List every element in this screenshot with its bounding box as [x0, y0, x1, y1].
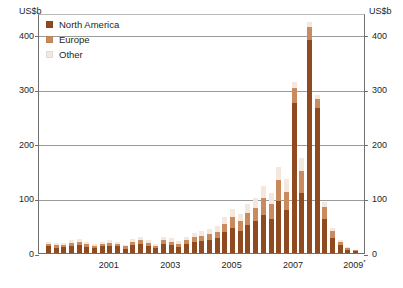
- bar-segment: [253, 221, 258, 253]
- y-tickmark-right: [364, 255, 368, 256]
- bar: [46, 242, 51, 253]
- x-tick-superscript: *: [363, 259, 365, 265]
- bar-segment: [169, 245, 174, 253]
- y-tick-label-right: 400: [372, 32, 387, 41]
- bar: [238, 214, 243, 253]
- bar-segment: [269, 193, 274, 204]
- bar: [77, 239, 82, 253]
- y-tick-label-right: 200: [372, 141, 387, 150]
- bar-segment: [284, 192, 289, 211]
- bar-segment: [307, 27, 312, 41]
- bar-segment: [192, 242, 197, 253]
- bar: [161, 237, 166, 253]
- y-tick-label-right: 300: [372, 86, 387, 95]
- bar-segment: [238, 231, 243, 253]
- bar: [299, 158, 304, 253]
- bar-segment: [338, 245, 343, 253]
- bar: [261, 186, 266, 253]
- bar: [292, 82, 297, 253]
- bar-segment: [215, 238, 220, 253]
- bar: [207, 229, 212, 253]
- legend-item: Europe: [46, 33, 119, 46]
- bar: [92, 244, 97, 253]
- bar-segment: [284, 179, 289, 192]
- bar-segment: [69, 246, 74, 253]
- legend-swatch-icon: [46, 51, 53, 58]
- bar: [115, 242, 120, 253]
- x-tick-label: 2005: [222, 260, 242, 270]
- bar-segment: [261, 198, 266, 214]
- bar-segment: [315, 108, 320, 253]
- legend: North AmericaEuropeOther: [46, 18, 119, 63]
- bar-segment: [299, 158, 304, 172]
- bar: [353, 250, 358, 253]
- bar-segment: [153, 248, 158, 253]
- bar-segment: [322, 219, 327, 253]
- bar-segment: [292, 103, 297, 253]
- bar-segment: [284, 210, 289, 253]
- bar-segment: [146, 246, 151, 253]
- bar: [192, 233, 197, 253]
- bar-segment: [253, 208, 258, 222]
- bar-segment: [322, 207, 327, 219]
- bar-segment: [92, 248, 97, 253]
- bar-segment: [230, 209, 235, 217]
- bar-segment: [199, 241, 204, 253]
- bar: [215, 226, 220, 253]
- bar-segment: [184, 244, 189, 253]
- bar-segment: [230, 228, 235, 253]
- bar: [222, 217, 227, 253]
- bar-segment: [138, 244, 143, 253]
- bar-segment: [123, 249, 128, 253]
- bar-segment: [315, 99, 320, 109]
- stacked-bar-chart: US$b US$b 0100200300400 0100200300400 20…: [0, 0, 403, 288]
- x-tick-label: 2009*: [343, 260, 365, 270]
- bar-segment: [353, 251, 358, 253]
- x-tick-label: 2003: [160, 260, 180, 270]
- bar-segment: [115, 246, 120, 253]
- bar: [107, 240, 112, 253]
- bar-segment: [176, 247, 181, 253]
- y-tick-label-right: 0: [372, 250, 377, 259]
- legend-item: North America: [46, 18, 119, 31]
- y-tick-label-left: 200: [19, 141, 34, 150]
- bar: [338, 240, 343, 253]
- legend-label: Europe: [59, 35, 90, 45]
- y-tickmark-right: [364, 36, 368, 37]
- bar: [146, 240, 151, 253]
- y-tickmark-right: [364, 145, 368, 146]
- bar-segment: [84, 247, 89, 253]
- legend-swatch-icon: [46, 36, 53, 43]
- bar: [330, 228, 335, 253]
- bar: [169, 238, 174, 253]
- bar: [345, 247, 350, 253]
- bar: [245, 204, 250, 253]
- legend-label: North America: [59, 20, 119, 30]
- bar-segment: [61, 247, 66, 253]
- bar: [276, 167, 281, 253]
- bar-segment: [345, 250, 350, 253]
- bar: [315, 95, 320, 253]
- bar: [307, 22, 312, 253]
- bar-segment: [238, 214, 243, 221]
- bar: [284, 179, 289, 253]
- y-tick-label-left: 300: [19, 86, 34, 95]
- bar: [184, 237, 189, 253]
- bar: [230, 209, 235, 253]
- bar-segment: [107, 246, 112, 253]
- bar-segment: [207, 240, 212, 253]
- y-tickmark-right: [364, 91, 368, 92]
- bar: [100, 242, 105, 253]
- bar-segment: [161, 244, 166, 253]
- bar-segment: [100, 246, 105, 253]
- bar: [54, 243, 59, 253]
- bar-segment: [222, 224, 227, 233]
- bar-segment: [77, 245, 82, 253]
- legend-label: Other: [59, 50, 83, 60]
- bar-segment: [269, 204, 274, 219]
- legend-item: Other: [46, 48, 119, 61]
- bar-segment: [238, 221, 243, 231]
- bar-segment: [299, 171, 304, 193]
- bar-segment: [269, 219, 274, 253]
- bar-segment: [307, 40, 312, 253]
